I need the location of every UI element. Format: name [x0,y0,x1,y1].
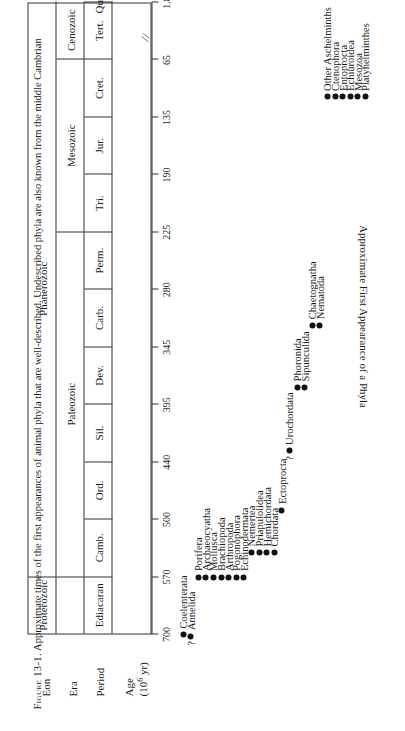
row-label-age-units: (106 yr) [135,637,150,697]
phylum-label: Urochordata [284,392,295,444]
period-band-sil: Sil. [85,404,113,461]
phylum-entry-nematoda: Nematoda [314,276,325,328]
phylum-entry-annelida: ?Annelida [185,592,196,646]
axis-tick-135 [152,116,159,117]
figure-rotated-wrapper: Eon Era Period Age (106 yr) ProterozoicP… [28,0,378,697]
figure-number: Figure 13-1. [32,653,43,710]
phylum-entry-urochordata: ?Urochordata [284,392,295,460]
axis-tick-label-700: 700 [161,627,172,642]
axis-tick-395 [152,404,159,405]
axis-tick-label-1.8: 1.8 [161,0,172,9]
axis-tick-1.8 [152,2,159,3]
period-band-tri: Tri. [85,174,113,231]
axis-tick-label-135: 135 [161,110,172,125]
uncertainty-marker: ? [284,456,295,460]
row-label-era: Era [67,637,79,697]
axis-tick-700 [152,634,159,635]
phylum-entry-sipunculida: Sipunculida [299,331,310,390]
data-point-dot [302,384,308,390]
axis-tick-225 [152,231,159,232]
row-label-stubs: Eon Era Period Age (106 yr) [28,635,378,697]
period-band-cret: Cret. [85,59,113,116]
phylum-label: Sipunculida [299,331,310,381]
age-axis-line [152,3,153,635]
era-band-paleozoic: Paleozoic [57,231,85,576]
geologic-timescale-figure: Eon Era Period Age (106 yr) ProterozoicP… [28,0,378,697]
phylum-label: Chordata [269,508,280,547]
figure-caption-text: Approximate times of the first appearanc… [32,38,43,651]
axis-tick-label-345: 345 [161,340,172,355]
age-units-exponent: 6 [136,678,145,682]
axis-tick-label-65: 65 [161,55,172,65]
data-point-dot [271,549,277,555]
period-band-ord: Ord. [85,461,113,518]
timescale-header-grid: ProterozoicPhanerozoicPaleozoicMesozoicC… [28,3,152,635]
phylum-entry-platyhelminthes: Platyhelminthes [360,23,371,100]
axis-tick-label-395: 395 [161,397,172,412]
axis-tick-500 [152,519,159,520]
age-units-open: (10 [137,682,149,697]
era-band-mesozoic: Mesozoic [57,59,85,231]
axis-tick-280 [152,289,159,290]
phylum-label: Ectoprocta [276,459,287,504]
period-band-perm: Perm. [85,231,113,288]
axis-tick-label-570: 570 [161,570,172,585]
period-band-jur: Jur. [85,116,113,173]
axis-tick-440 [152,461,159,462]
period-band-carb: Carb. [85,289,113,346]
figure-caption: Figure 13-1. Approximate times of the fi… [30,10,45,710]
axis-tick-label-225: 225 [161,225,172,240]
data-point-dot [241,574,247,580]
uncertainty-marker: ? [185,641,196,645]
axis-tick-345 [152,346,159,347]
phylum-entry-ectoprocta: Ectoprocta [276,459,287,513]
axis-tick-label-190: 190 [161,167,172,182]
axis-tick-label-280: 280 [161,282,172,297]
era-band-unlabeled [57,576,85,633]
data-point-dot [279,507,285,513]
axis-tick-65 [152,59,159,60]
row-label-age-text: Age [123,678,135,696]
phylum-label: Nematoda [314,276,325,319]
row-label-age: Age (106 yr) [123,637,150,697]
phylum-label: Annelida [185,592,196,631]
age-units-tail: yr) [137,662,149,678]
phylum-entry-chordata: Chordata [269,508,280,556]
axis-tick-label-440: 440 [161,455,172,470]
row-label-period: Period [94,637,106,697]
phylum-label: Platyhelminthes [360,23,371,91]
period-band-ediacaran: Ediacaran [85,576,113,633]
data-point-dot [362,94,368,100]
axis-tick-570 [152,576,159,577]
phyla-plot-area: Coelenterata?AnnelidaPoriferaArchaeocyat… [178,3,378,635]
period-band-camb: Camb. [85,519,113,576]
y-axis-label: Approximate First Appearance of a Phyla [358,107,370,527]
period-band-dev: Dev. [85,346,113,403]
axis-tick-190 [152,174,159,175]
data-point-dot [286,448,292,454]
axis-tick-label-500: 500 [161,512,172,527]
era-band-cenozoic: Cenozoic [57,2,85,59]
data-point-dot [317,322,323,328]
data-point-dot [188,633,194,639]
